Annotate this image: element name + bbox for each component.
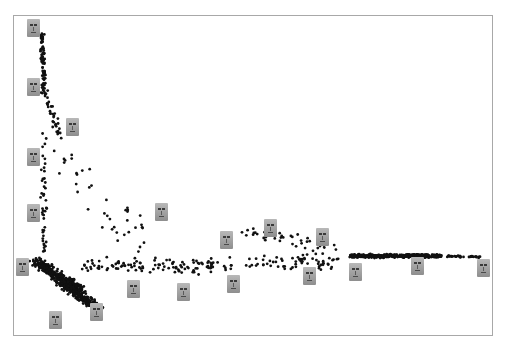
face-image-marker: [411, 257, 424, 275]
point-cluster-vertical-left: [39, 132, 48, 253]
scatter-plot: [0, 0, 505, 350]
face-image-marker: [27, 204, 40, 222]
point-cluster-upper-diag: [40, 86, 63, 139]
face-image-marker: [316, 228, 329, 246]
face-image-marker: [477, 259, 490, 277]
face-image-marker: [303, 267, 316, 285]
face-image-marker: [349, 263, 362, 281]
face-image-marker: [27, 148, 40, 166]
face-image-marker: [227, 275, 240, 293]
face-image-marker: [66, 118, 79, 136]
point-cluster-mid-band: [81, 253, 340, 276]
face-image-marker: [127, 280, 140, 298]
face-image-marker: [16, 258, 29, 276]
point-cluster-mid-scatter: [53, 150, 146, 254]
face-image-marker: [27, 78, 40, 96]
point-cluster-right-tail: [438, 254, 482, 259]
face-image-marker: [90, 303, 103, 321]
face-image-marker: [155, 203, 168, 221]
face-image-marker: [27, 19, 40, 37]
face-image-marker: [220, 231, 233, 249]
face-image-marker: [264, 219, 277, 237]
point-cluster-top-stream: [39, 32, 47, 91]
face-image-marker: [49, 311, 62, 329]
face-image-marker: [177, 283, 190, 301]
point-cluster-right-dense: [348, 253, 442, 260]
